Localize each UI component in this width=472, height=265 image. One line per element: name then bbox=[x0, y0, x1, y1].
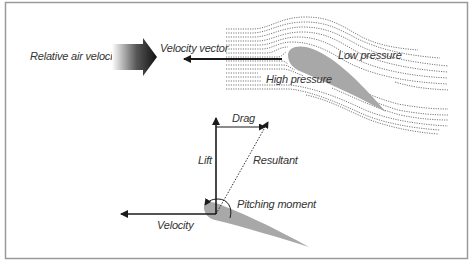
drag-label: Drag bbox=[232, 112, 256, 124]
force-diagram: Drag Lift Resultant Pitching moment Velo… bbox=[121, 112, 317, 247]
velocity-label: Velocity bbox=[157, 219, 195, 231]
velocity-vector-label: Velocity vector bbox=[160, 42, 230, 54]
pitching-moment-label: Pitching moment bbox=[237, 198, 317, 210]
relative-air-velocity-arrow-icon bbox=[112, 38, 157, 76]
lift-label: Lift bbox=[198, 154, 213, 166]
relative-air-velocity-label: Relative air velocity bbox=[30, 50, 122, 62]
low-pressure-label: Low pressure bbox=[338, 49, 402, 61]
airfoil-forces-figure: Relative air velocity Velocity vector bbox=[0, 0, 472, 265]
high-pressure-label: High pressure bbox=[266, 73, 332, 85]
resultant-label: Resultant bbox=[253, 154, 299, 166]
